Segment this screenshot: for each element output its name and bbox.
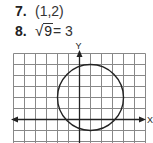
x-axis-label: X: [147, 115, 153, 125]
x-axis-left-arrow-icon: [11, 117, 18, 123]
x-axis-right-arrow-icon: [139, 117, 146, 123]
coordinate-graph: Y X: [0, 0, 153, 143]
y-axis-label: Y: [76, 41, 82, 51]
